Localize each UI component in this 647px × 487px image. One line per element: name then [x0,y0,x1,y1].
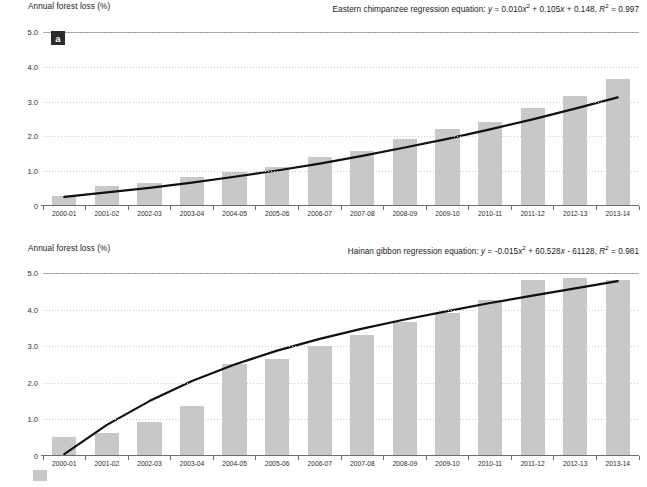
x-axis-tick-label: 2008-09 [384,210,427,217]
x-tick: 2013-14 [597,206,640,220]
x-tick: 2001-02 [86,206,129,220]
regression-line [64,281,617,454]
gridline [43,102,639,103]
x-tick: 2007-08 [341,456,384,470]
x-axis-tick-label: 2007-08 [341,210,384,217]
x-tick: 2001-02 [86,456,129,470]
gridline [43,346,639,347]
x-axis-tick-label: 2006-07 [298,460,341,467]
x-axis-tick-label: 2011-12 [511,460,554,467]
panel-a-axis-title: Annual forest loss (%) [28,2,110,11]
chart-panel-b: Annual forest loss (%) Hainan gibbon reg… [0,242,647,487]
x-tick: 2005-06 [256,456,299,470]
x-axis-tick-label: 2009-10 [426,210,469,217]
figure-page: Annual forest loss (%) Eastern chimpanze… [0,0,647,487]
gridline [43,32,639,33]
x-tick: 2009-10 [426,206,469,220]
y-axis-tick-label: 2.0 [27,132,38,141]
x-tick: 2004-05 [213,456,256,470]
x-axis-tick-label: 2010-11 [469,210,512,217]
x-axis-tick-label: 2004-05 [213,460,256,467]
x-axis-tick-label: 2003-04 [171,210,214,217]
x-axis-tick-label: 2007-08 [341,460,384,467]
panel-a-equation-body: y = 0.010x2 + 0.105x + 0.148, R2 = 0.997 [488,5,639,14]
x-axis-tick-label: 2001-02 [86,460,129,467]
y-axis-tick-label: 4.0 [27,62,38,71]
y-axis-tick-label: 4.0 [27,305,38,314]
gridline [43,171,639,172]
panel-a-equation-prefix: Eastern chimpanzee regression equation: [333,5,486,14]
panel-a-plot-area: 2000-012001-022002-032003-042004-052005-… [43,32,639,206]
x-tick: 2008-09 [384,456,427,470]
panel-b-equation: Hainan gibbon regression equation: y = -… [348,244,639,256]
x-axis-tick-label: 2004-05 [213,210,256,217]
x-axis-tick-label: 2000-01 [43,210,86,217]
y-axis-tick-label: 1.0 [27,167,38,176]
x-axis-tick-label: 2010-11 [469,460,512,467]
y-axis-tick-label: 1.0 [27,415,38,424]
regression-line [64,97,617,197]
x-tick: 2013-14 [597,456,640,470]
panel-a-tag: a [51,31,65,45]
x-tick: 2012-13 [554,456,597,470]
panel-b-equation-prefix: Hainan gibbon regression equation: [348,247,479,256]
x-axis-tick-label: 2013-14 [597,210,640,217]
x-axis-tick-label: 2001-02 [86,210,129,217]
gridline [43,419,639,420]
panel-b-x-tick-row: 2000-012001-022002-032003-042004-052005-… [43,456,639,470]
legend-color-swatch [33,470,47,481]
y-axis-tick-label: 5.0 [27,28,38,37]
gridline [43,136,639,137]
x-axis-tick-label: 2005-06 [256,460,299,467]
y-axis-tick-label: 5.0 [27,269,38,278]
x-axis-tick-label: 2009-10 [426,460,469,467]
x-axis-tick-label: 2008-09 [384,460,427,467]
x-tick: 2012-13 [554,206,597,220]
panel-a-x-tick-row: 2000-012001-022002-032003-042004-052005-… [43,206,639,220]
x-tick: 2002-03 [128,456,171,470]
panel-b-equation-body: y = -0.015x2 + 60.528x - 61128, R2 = 0.9… [481,247,639,256]
x-tick: 2006-07 [298,206,341,220]
y-axis-tick-label: 3.0 [27,97,38,106]
x-axis-tick-label: 2012-13 [554,460,597,467]
y-axis-tick-label: 2.0 [27,378,38,387]
x-axis-tick-label: 2012-13 [554,210,597,217]
x-tick: 2000-01 [43,456,86,470]
x-tick: 2009-10 [426,456,469,470]
x-tick: 2003-04 [171,456,214,470]
x-tick: 2003-04 [171,206,214,220]
x-axis-tick-label: 2002-03 [128,210,171,217]
x-tick: 2007-08 [341,206,384,220]
x-tick: 2002-03 [128,206,171,220]
x-axis-tick-label: 2013-14 [597,460,640,467]
panel-b-header: Annual forest loss (%) Hainan gibbon reg… [0,242,647,260]
panel-b-plot-area: 2000-012001-022002-032003-042004-052005-… [43,273,639,456]
y-axis-tick-label: 3.0 [27,342,38,351]
gridline [43,310,639,311]
panel-a-equation: Eastern chimpanzee regression equation: … [333,2,639,14]
x-tick: 2004-05 [213,206,256,220]
gridline [43,273,639,274]
x-axis-tick-label: 2000-01 [43,460,86,467]
x-axis-tick-label: 2002-03 [128,460,171,467]
x-tick: 2005-06 [256,206,299,220]
x-tick: 2011-12 [511,206,554,220]
x-axis-tick-label: 2006-07 [298,210,341,217]
x-tick: 2000-01 [43,206,86,220]
x-tick: 2011-12 [511,456,554,470]
x-axis-tick-label: 2003-04 [171,460,214,467]
gridline [43,383,639,384]
chart-panel-a: Annual forest loss (%) Eastern chimpanze… [0,0,647,240]
panel-a-header: Annual forest loss (%) Eastern chimpanze… [0,0,647,18]
panel-a-regression-curve [43,32,639,206]
gridline [43,67,639,68]
x-tick: 2006-07 [298,456,341,470]
x-tick: 2008-09 [384,206,427,220]
x-tick: 2010-11 [469,456,512,470]
x-axis-tick-label: 2005-06 [256,210,299,217]
x-tick: 2010-11 [469,206,512,220]
panel-b-regression-curve [43,273,639,456]
y-axis-tick-label: 0 [34,202,38,211]
y-axis-tick-label: 0 [34,452,38,461]
x-axis-tick-label: 2011-12 [511,210,554,217]
